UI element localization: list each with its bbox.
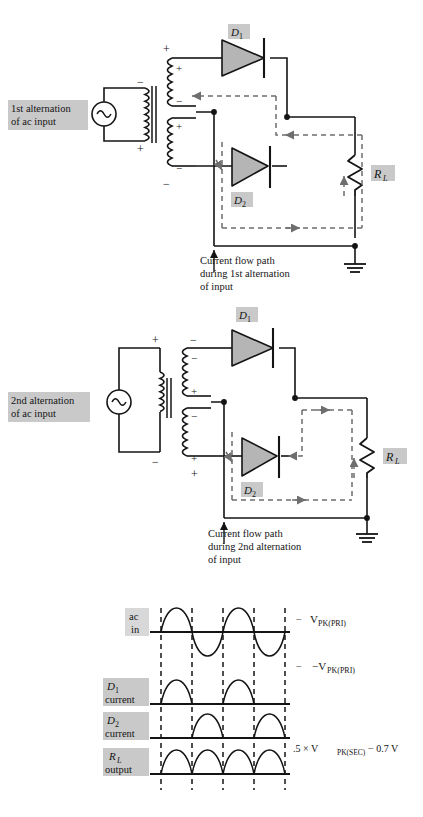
transformer-core-1: [152, 86, 156, 143]
note-1-line3: of input: [200, 281, 233, 292]
annotation-vpk-pri-positive: − V PK(PRI): [296, 613, 346, 628]
resistor-rl-label-1: R: [373, 167, 382, 181]
state-label-2: 2nd alternation of ac input: [8, 392, 90, 422]
polarity-primary-bottom-1: +: [137, 142, 144, 156]
resistor-rl-sub-1: L: [382, 174, 388, 183]
state-label-2-line2: of ac input: [11, 408, 56, 419]
waveform-label-ac-in-line2: in: [131, 624, 140, 635]
circuit-1st-alternation: 1st alternation of ac input − +: [8, 24, 395, 292]
resistor-rl-label-2: R: [385, 450, 394, 464]
polarity-sec-bot-inner-2: +: [191, 452, 197, 464]
polarity-primary-top-2: +: [152, 333, 159, 347]
callout-note-2: Current flow path during 2nd alternation…: [208, 522, 302, 565]
vpk-pri-pos-sub: PK(PRI): [318, 619, 346, 628]
diode-d1-label-sub-2: 1: [247, 315, 251, 324]
polarity-sec-top-inner-1: +: [176, 62, 182, 74]
waveform-label-d1-line1: D: [106, 680, 115, 692]
diode-d2-label-sub-1: 2: [242, 200, 246, 209]
diode-d2-label-text-2: D: [243, 484, 252, 496]
polarity-sec-bot-outer-1: −: [163, 177, 170, 191]
annotation-vpk-pri-negative: − −V PK(PRI): [296, 660, 355, 675]
note-1-line2: during 1st alternation: [200, 268, 291, 279]
waveform-label-d1-current: D 1 current: [103, 678, 149, 706]
diode-d1-symbol-2: [232, 328, 273, 368]
diode-d2-label-text-1: D: [233, 194, 242, 206]
transformer-primary-2: + −: [152, 333, 164, 469]
note-1-line1: Current flow path: [200, 255, 275, 266]
wire-center-tap-1: [196, 109, 217, 246]
diode-d2-label-1: D 2: [231, 192, 253, 209]
polarity-sec-ct-upper-2: +: [191, 385, 197, 397]
wire-center-tap-2: [211, 399, 227, 518]
transformer-secondary-1: + + − + − −: [163, 42, 196, 191]
waveform-panel: ac in D 1 current D 2 current R L output: [103, 608, 399, 790]
polarity-sec-bot-outer-2: +: [191, 467, 198, 481]
state-label-2-line1: 2nd alternation: [11, 395, 75, 406]
waveform-label-d2-current: D 2 current: [103, 712, 149, 740]
diode-d1-label-text-1: D: [230, 26, 239, 38]
diode-d1-symbol-1: [222, 38, 264, 78]
state-label-1-line2: of ac input: [11, 116, 56, 127]
waveform-label-d2-line1: D: [106, 714, 115, 726]
transformer-primary-1: − +: [137, 75, 149, 156]
rl-peak-text-b: − 0.7 V: [368, 743, 399, 754]
state-label-1: 1st alternation of ac input: [8, 100, 88, 130]
waveform-label-rl-line1: R: [108, 750, 116, 762]
diode-d2-symbol-2: [242, 436, 279, 478]
polarity-primary-top-1: −: [137, 75, 144, 89]
note-2-line3: of input: [208, 554, 241, 565]
figure-full-wave-rectifier: 1st alternation of ac input − +: [0, 0, 423, 817]
diode-d1-label-1: D 1: [228, 24, 250, 41]
waveform-label-d1-line2: current: [105, 694, 135, 705]
vpk-pri-neg-dash: −: [296, 661, 302, 672]
polarity-sec-top-outer-1: +: [163, 42, 170, 56]
vpk-pri-pos-dash: −: [296, 614, 302, 625]
rl-peak-sub: PK(SEC): [337, 748, 366, 757]
waveform-label-rl-output: R L output: [103, 748, 149, 776]
waveform-label-ac-in-line1: ac: [129, 611, 139, 622]
note-2-line1: Current flow path: [208, 528, 283, 539]
waveform-label-ac-in: ac in: [125, 608, 149, 636]
rl-peak-text-a: .5 × V: [293, 743, 319, 754]
polarity-sec-top-inner-2: −: [191, 352, 197, 364]
circuit-2nd-alternation: 2nd alternation of ac input + −: [8, 307, 407, 565]
resistor-rl-1: R L: [348, 155, 395, 196]
diode-d1-label-2: D 1: [236, 307, 258, 324]
waveform-label-rl-line2: output: [105, 764, 132, 775]
transformer-core-2: [167, 378, 171, 418]
note-2-line2: during 2nd alternation: [208, 541, 302, 552]
diode-d2-symbol-1: [232, 146, 270, 188]
polarity-primary-bottom-2: −: [152, 455, 159, 469]
annotation-rl-peak: .5 × V PK(SEC) − 0.7 V: [293, 743, 399, 757]
polarity-sec-ct-upper-1: −: [176, 95, 182, 107]
waveform-trace-d1: [161, 680, 254, 704]
waveform-trace-d2: [192, 714, 285, 738]
ac-source-2: [107, 348, 160, 452]
polarity-sec-ct-lower-2: −: [191, 410, 197, 422]
vpk-pri-neg-text: −V: [312, 660, 326, 672]
diode-d2-label-2: D 2: [241, 482, 263, 499]
vpk-pri-pos-text: V: [310, 613, 318, 625]
transformer-secondary-2: − − + − + +: [183, 333, 212, 481]
resistor-rl-2: R L: [360, 438, 407, 478]
diode-d1-label-text-2: D: [238, 309, 247, 321]
waveform-label-d2-line2: current: [105, 728, 135, 739]
ac-source-1: [92, 88, 145, 141]
resistor-rl-sub-2: L: [394, 457, 400, 466]
polarity-sec-bot-inner-1: −: [176, 162, 182, 174]
polarity-sec-top-outer-2: −: [190, 333, 197, 347]
diode-d1-label-sub-1: 1: [239, 32, 243, 41]
polarity-sec-ct-lower-1: +: [176, 120, 182, 132]
callout-note-1: Current flow path during 1st alternation…: [200, 250, 291, 292]
vpk-pri-neg-sub: PK(PRI): [327, 666, 355, 675]
state-label-1-line1: 1st alternation: [11, 103, 72, 114]
diode-d2-label-sub-2: 2: [252, 490, 256, 499]
